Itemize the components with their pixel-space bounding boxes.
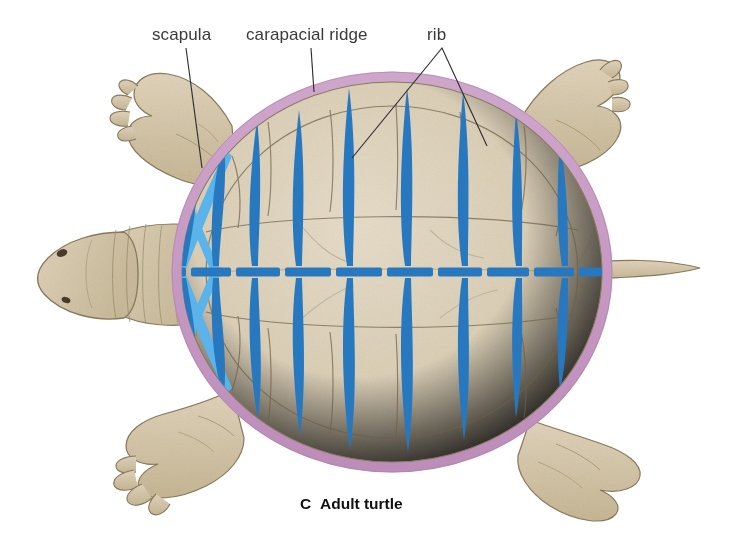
turtle-anatomy-figure: scapula carapacial ridge rib C Adult tur… bbox=[0, 0, 740, 535]
label-scapula: scapula bbox=[152, 25, 212, 44]
hindlimb-left bbox=[114, 390, 244, 515]
vertebral-column bbox=[148, 268, 638, 277]
panel-title: Adult turtle bbox=[320, 495, 403, 512]
panel-letter: C bbox=[300, 495, 311, 512]
label-rib: rib bbox=[427, 25, 446, 44]
hindlimb-right bbox=[518, 420, 640, 521]
labels: scapula carapacial ridge rib bbox=[152, 25, 446, 44]
figure-caption: C Adult turtle bbox=[300, 495, 403, 512]
label-carapacial-ridge: carapacial ridge bbox=[246, 25, 368, 44]
